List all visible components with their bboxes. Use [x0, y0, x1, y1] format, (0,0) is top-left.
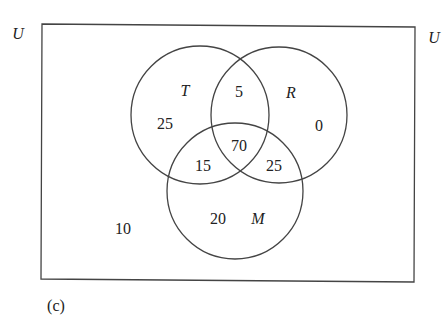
- region-outside: 10: [115, 221, 131, 237]
- caption: (c): [47, 298, 65, 314]
- set-label-t: T: [181, 83, 190, 99]
- universe-label-right: U: [428, 30, 440, 46]
- region-t-only: 25: [157, 116, 173, 132]
- region-t-and-m-only: 15: [195, 158, 211, 174]
- region-t-and-r-only: 5: [235, 84, 243, 100]
- region-r-only: 0: [315, 118, 323, 134]
- region-r-and-m-only: 25: [266, 158, 282, 174]
- universe-label-left: U: [12, 26, 24, 42]
- set-label-m: M: [251, 211, 264, 227]
- venn-diagram: [0, 0, 448, 326]
- region-t-r-m: 70: [231, 138, 247, 154]
- universe-rectangle: [41, 24, 415, 282]
- region-m-only: 20: [210, 211, 226, 227]
- set-label-r: R: [286, 85, 296, 101]
